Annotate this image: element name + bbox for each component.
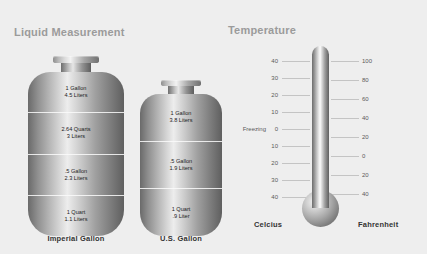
thermometer-diagram: 40302010010203040 1008060402002040 Freez… [238,44,418,234]
measurement-band: .5 Gallon 2.3 Liters [28,154,124,195]
fahrenheit-tick-mark [331,118,359,119]
celsius-tick-mark [282,180,310,181]
fahrenheit-tick-label: 0 [362,153,365,159]
celsius-tick-mark [282,78,310,79]
fahrenheit-caption: Fahrenheit [358,220,398,229]
band-secondary-value: 1.9 Liters [169,165,192,172]
celsius-tick-mark [282,112,310,113]
temperature-title: Temperature [228,24,296,36]
jug-body: 1 Gallon 4.5 Liters 2.64 Quarts 3 Liters… [28,72,124,236]
measurement-band: .5 Gallon 1.9 Liters [140,141,222,189]
us-gallon-container: 1 Gallon 3.8 Liters .5 Gallon 1.9 Liters… [140,80,222,246]
band-primary-value: .5 Gallon [65,168,87,175]
celsius-tick-label: 30 [271,177,278,183]
fahrenheit-tick-label: 100 [362,58,372,64]
band-secondary-value: .9 Liter [172,213,189,220]
band-secondary-value: 4.5 Liters [64,92,87,99]
celsius-tick-label: 10 [271,109,278,115]
fahrenheit-tick-label: 40 [362,115,369,121]
measurement-band: 1 Quart .9 Liter [140,188,222,236]
celsius-tick-mark [282,163,310,164]
thermometer-tube-icon [312,46,329,208]
fahrenheit-tick-mark [331,175,359,176]
band-primary-value: 1 Quart [67,209,86,216]
imperial-gallon-container: 1 Gallon 4.5 Liters 2.64 Quarts 3 Liters… [28,56,124,246]
measurement-band: 1 Gallon 4.5 Liters [28,72,124,112]
fahrenheit-tick-label: 40 [362,191,369,197]
measurement-band: 1 Gallon 3.8 Liters [140,94,222,141]
band-secondary-value: 3 Liters [67,133,85,140]
fahrenheit-tick-mark [331,194,359,195]
fahrenheit-tick-mark [331,99,359,100]
fahrenheit-tick-mark [331,61,359,62]
band-primary-value: 2.64 Quarts [61,126,90,133]
jug-cap-icon [53,56,99,63]
band-secondary-value: 2.3 Liters [64,175,87,182]
band-primary-value: 1 Quart [172,206,191,213]
fahrenheit-tick-label: 20 [362,134,369,140]
fahrenheit-tick-label: 60 [362,96,369,102]
celsius-tick-mark [282,129,310,130]
celsius-tick-mark [282,61,310,62]
fahrenheit-tick-mark [331,156,359,157]
fahrenheit-tick-label: 80 [362,77,369,83]
celsius-tick-label: 0 [275,126,278,132]
band-secondary-value: 3.8 Liters [169,117,192,124]
fahrenheit-tick-mark [331,137,359,138]
jug-body: 1 Gallon 3.8 Liters .5 Gallon 1.9 Liters… [140,94,222,236]
fahrenheit-tick-mark [331,80,359,81]
celsius-caption: Celcius [254,220,282,229]
liquid-measurement-title: Liquid Measurement [14,26,125,38]
us-gallon-caption: U.S. Gallon [140,234,222,243]
celsius-tick-label: 40 [271,58,278,64]
celsius-tick-label: 20 [271,160,278,166]
celsius-tick-label: 10 [271,143,278,149]
measurement-band: 2.64 Quarts 3 Liters [28,112,124,153]
fahrenheit-tick-label: 20 [362,172,369,178]
measurement-band: 1 Quart 1.1 Liters [28,195,124,236]
imperial-gallon-caption: Imperial Gallon [28,234,124,243]
band-primary-value: 1 Gallon [171,110,192,117]
celsius-tick-mark [282,146,310,147]
band-primary-value: .5 Gallon [170,158,192,165]
celsius-tick-label: 20 [271,92,278,98]
freezing-label: Freezing [243,126,266,132]
band-secondary-value: 1.1 Liters [64,216,87,223]
celsius-tick-mark [282,95,310,96]
celsius-tick-label: 40 [271,194,278,200]
celsius-tick-label: 30 [271,75,278,81]
band-primary-value: 1 Gallon [66,85,87,92]
